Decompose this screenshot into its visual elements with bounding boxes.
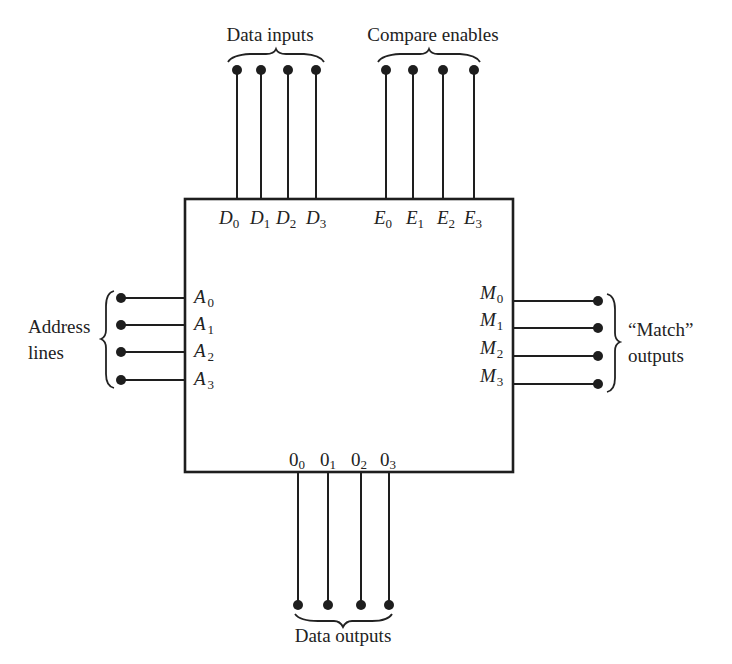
pin-a2-terminal [116,347,126,357]
address-lines-label-line1: Address [28,316,90,337]
data-input-pins [232,65,321,199]
data-outputs-label: Data outputs [295,625,392,646]
associative-memory-diagram: Data inputs Compare enables D0 D1 [0,0,732,664]
match-output-pins [513,296,603,389]
address-lines-brace [101,291,114,388]
pin-a0-terminal [116,293,126,303]
pin-e1-terminal [408,65,418,75]
pin-e2-terminal [438,65,448,75]
pin-o2-terminal [356,600,366,610]
compare-enables-brace [378,49,480,62]
match-outputs-label-line1: “Match” [628,319,693,340]
data-inputs-label: Data inputs [226,24,313,45]
pin-d0-terminal [232,65,242,75]
memory-block [185,199,513,472]
pin-e3-terminal [469,65,479,75]
pin-m2-terminal [593,351,603,361]
address-line-pins [116,293,185,385]
match-outputs-brace [607,294,620,392]
match-outputs-label-line2: outputs [628,345,684,366]
address-lines-label-line2: lines [28,342,64,363]
compare-enables-label: Compare enables [367,24,498,45]
data-inputs-brace [228,49,324,62]
pin-d1-terminal [256,65,266,75]
compare-enable-pins [381,65,479,199]
data-output-pins [293,472,394,610]
pin-d2-terminal [283,65,293,75]
pin-d3-terminal [311,65,321,75]
pin-m0-terminal [593,296,603,306]
pin-a3-terminal [116,375,126,385]
pin-m1-terminal [593,323,603,333]
pin-o3-terminal [384,600,394,610]
pin-o1-terminal [323,600,333,610]
pin-m3-terminal [593,379,603,389]
pin-e0-terminal [381,65,391,75]
pin-o0-terminal [293,600,303,610]
pin-a1-terminal [116,320,126,330]
